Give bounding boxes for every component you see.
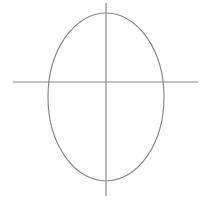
diagram-canvas — [0, 0, 207, 207]
ellipse-diagram — [0, 0, 207, 207]
